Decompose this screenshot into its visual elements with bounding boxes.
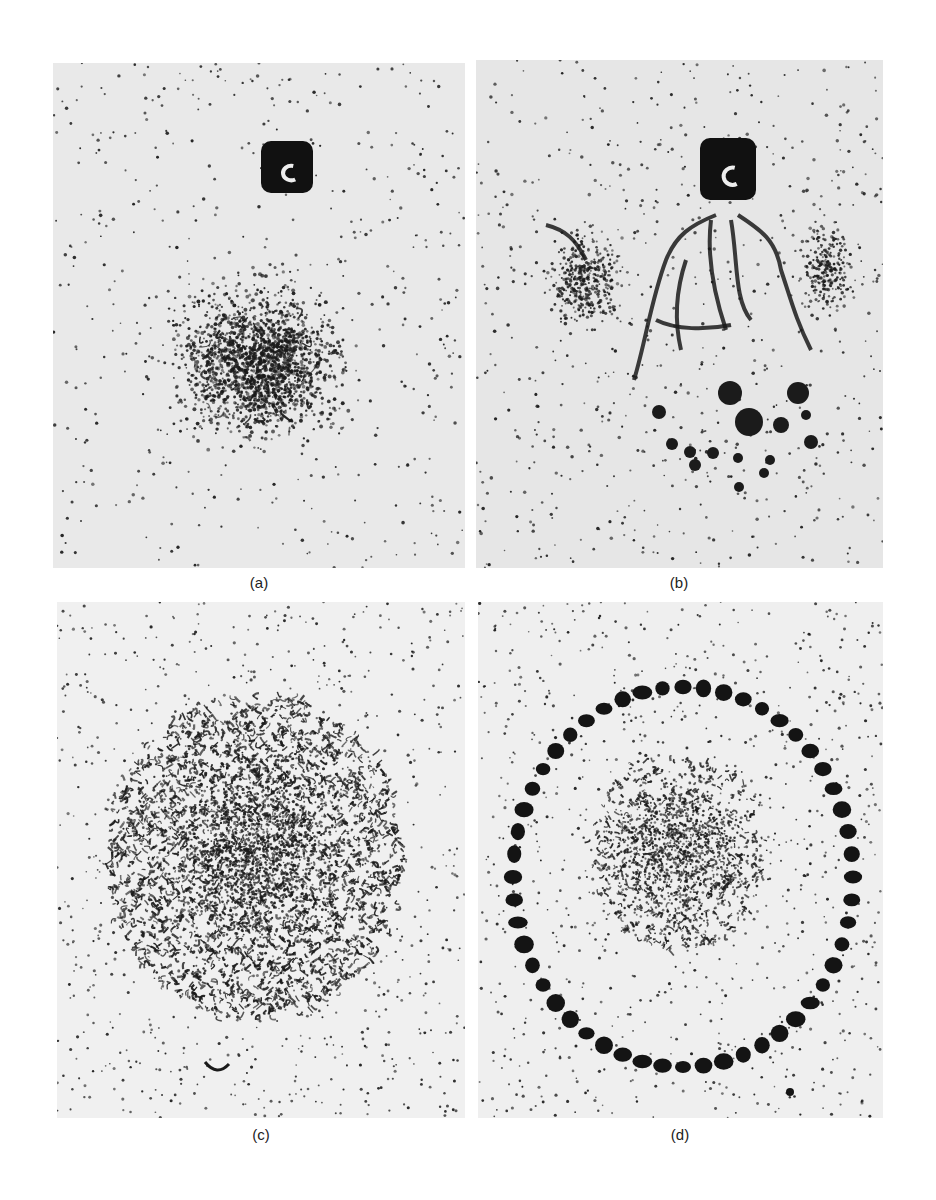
panel-c-photo (57, 602, 465, 1118)
panel-a-label: (a) (219, 574, 299, 591)
panel-c-label: (c) (221, 1126, 301, 1143)
panel-d-label: (d) (640, 1126, 720, 1143)
panel-d-image (478, 602, 883, 1118)
panel-a-image (53, 63, 465, 568)
panel-b-label: (b) (639, 574, 719, 591)
panel-c-image (57, 602, 465, 1118)
panel-b-image (476, 60, 883, 568)
panel-d-photo (478, 602, 883, 1118)
panel-b-photo (476, 60, 883, 568)
panel-a-photo (53, 63, 465, 568)
